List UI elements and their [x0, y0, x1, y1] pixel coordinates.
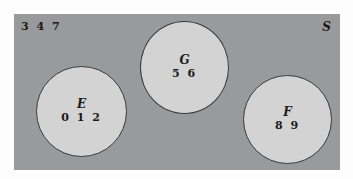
set-e-content: E 0 1 2 — [37, 97, 126, 123]
set-f-elements: 8 9 — [244, 118, 331, 131]
set-f-content: F 8 9 — [244, 105, 331, 131]
set-f-circle: F 8 9 — [243, 75, 332, 164]
set-e-label: E — [37, 97, 126, 110]
set-g-elements: 5 6 — [141, 66, 228, 79]
outside-elements: 3 4 7 — [21, 20, 62, 33]
set-g-content: G 5 6 — [141, 53, 228, 79]
set-g-circle: G 5 6 — [140, 21, 229, 114]
set-g-label: G — [141, 53, 228, 66]
set-f-label: F — [244, 105, 331, 118]
universe-rectangle: 3 4 7 S E 0 1 2 G 5 6 F 8 9 — [14, 14, 340, 170]
set-e-circle: E 0 1 2 — [36, 66, 127, 157]
universe-label: S — [322, 20, 331, 34]
set-e-elements: 0 1 2 — [37, 110, 126, 123]
